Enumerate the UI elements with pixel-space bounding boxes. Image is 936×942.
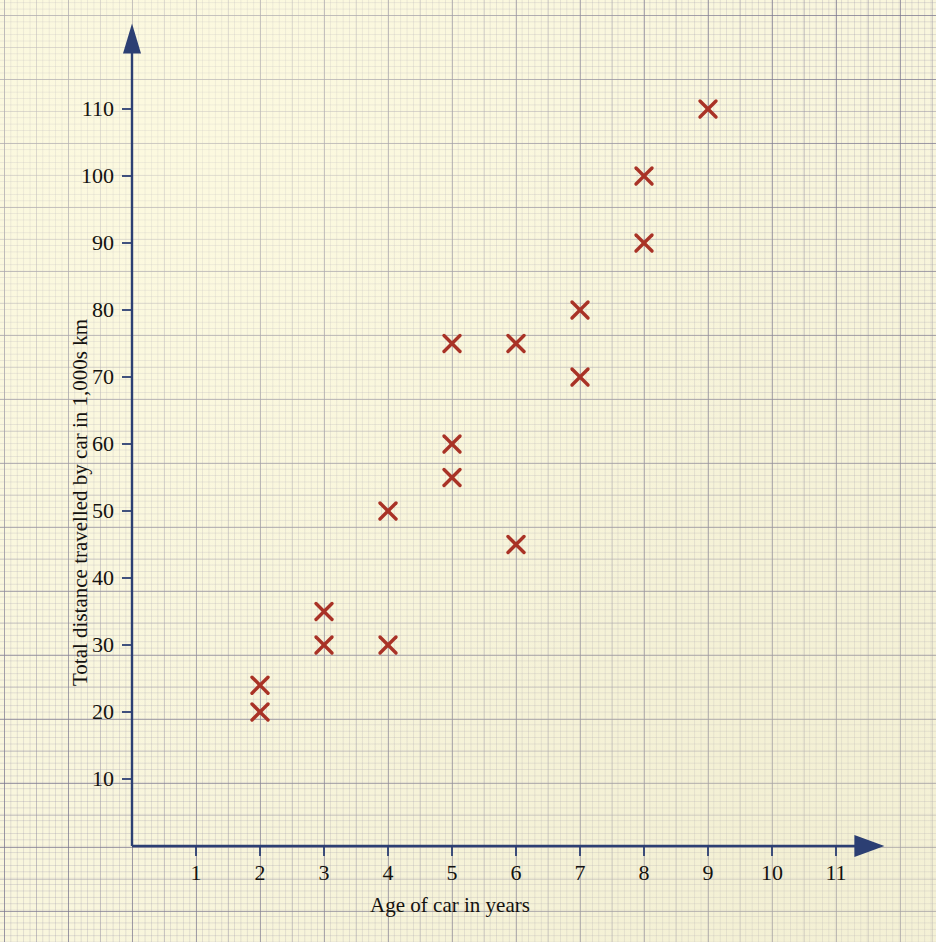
x-tick-label: 9 — [678, 862, 738, 884]
scatter-graph: 102030405060708090100110 1234567891011 T… — [0, 0, 936, 942]
x-tick-label: 8 — [614, 862, 674, 884]
data-point — [380, 637, 396, 653]
axes — [123, 23, 884, 857]
x-axis-title: Age of car in years — [300, 893, 600, 918]
data-point — [380, 503, 396, 519]
x-tick-label: 4 — [358, 862, 418, 884]
x-tick-label: 3 — [294, 862, 354, 884]
x-tick-label: 1 — [166, 862, 226, 884]
y-tick-label: 20 — [22, 701, 114, 723]
x-tick-label: 7 — [550, 862, 610, 884]
data-points — [252, 101, 716, 720]
y-tick-label: 90 — [22, 232, 114, 254]
y-tick-label: 100 — [22, 165, 114, 187]
x-tick-label: 5 — [422, 862, 482, 884]
data-point — [572, 369, 588, 385]
x-tick-label: 6 — [486, 862, 546, 884]
data-point — [316, 604, 332, 620]
data-point — [636, 168, 652, 184]
data-point — [252, 704, 268, 720]
data-point — [444, 436, 460, 452]
data-point — [444, 470, 460, 486]
x-tick-label: 2 — [230, 862, 290, 884]
y-tick-label: 80 — [22, 299, 114, 321]
x-tick-label: 10 — [742, 862, 802, 884]
y-tick-label: 10 — [22, 768, 114, 790]
data-point — [444, 336, 460, 352]
data-point — [508, 537, 524, 553]
data-point — [508, 336, 524, 352]
data-point — [316, 637, 332, 653]
data-point — [700, 101, 716, 117]
axis-ticks — [122, 109, 836, 856]
x-tick-label: 11 — [806, 862, 866, 884]
y-axis-title: Total distance travelled by car in 1,000… — [68, 319, 93, 686]
data-point — [636, 235, 652, 251]
data-point — [572, 302, 588, 318]
y-tick-label: 110 — [22, 98, 114, 120]
plot-area — [0, 0, 936, 942]
data-point — [252, 677, 268, 693]
